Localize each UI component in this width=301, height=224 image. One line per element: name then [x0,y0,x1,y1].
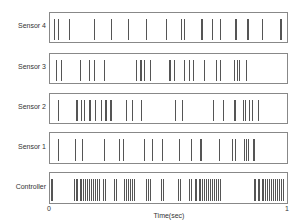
spike [245,100,246,121]
spike [106,100,107,121]
spike [248,19,249,40]
spike [281,179,282,201]
spike [144,60,145,81]
spike [52,179,53,201]
spike [150,60,151,81]
spike [81,100,82,121]
spike [85,179,86,201]
x-tick-1: 1 [285,205,289,212]
spike [181,19,182,40]
spike [234,60,235,81]
spike [273,179,274,201]
spike [184,60,185,81]
spike [265,179,266,201]
spike [235,100,236,121]
spike [213,100,214,121]
spike [184,19,185,40]
spike [77,179,78,201]
panel-sensor-2 [49,93,288,124]
spike [277,179,278,201]
spike [148,179,149,201]
spike [89,179,90,201]
spike [150,179,151,201]
spike [124,179,125,201]
spike [128,179,129,201]
spike [216,179,217,201]
spike [263,179,264,201]
spike [94,19,95,40]
spike [271,179,272,201]
spike [94,60,95,81]
spike [77,100,78,121]
spike [246,60,247,81]
spike [202,179,203,201]
spike [74,179,75,201]
spike [69,19,70,40]
spike [220,60,221,81]
spike [246,139,247,161]
spike [216,60,217,81]
spike [248,139,249,161]
spike [206,179,207,201]
spike [56,60,57,81]
spike [97,179,98,201]
spike [210,179,211,201]
spike [239,60,240,81]
spike [255,179,256,201]
spike [220,179,221,201]
spike [208,179,209,201]
spike [220,19,221,40]
spike [180,179,181,201]
row-label-sensor-3: Sensor 3 [0,63,46,70]
spike [170,60,171,81]
spike [134,179,135,201]
spike [81,179,82,201]
spike [128,19,129,40]
spike [267,179,268,201]
spike [283,179,284,201]
spike [193,60,194,81]
spike [174,60,175,81]
spike [144,139,145,161]
spike [54,19,55,40]
spike [281,19,282,40]
spike [235,139,236,161]
spike [236,19,237,40]
spike [254,139,255,161]
panel-sensor-4 [49,12,288,43]
spike [196,179,197,201]
spike [89,60,90,81]
spike [114,179,115,201]
spike [93,179,94,201]
spike [166,19,167,40]
spike [141,100,142,121]
spike [105,179,106,201]
spike [191,179,192,201]
spike [130,179,131,201]
spike [83,179,84,201]
spike [182,100,183,121]
spike [103,179,104,201]
spike [146,179,147,201]
spike [132,100,133,121]
spike [84,100,85,121]
spike [95,179,96,201]
spike [189,179,190,201]
spike [101,100,102,121]
spike [136,60,137,81]
spike [214,179,215,201]
spike [218,179,219,201]
spike [111,100,112,121]
spike [258,100,259,121]
spike [87,179,88,201]
spike [179,139,180,161]
x-tick-0: 0 [47,205,51,212]
spike [90,100,91,121]
spike [232,139,233,161]
spike [61,60,62,81]
spike [262,19,263,40]
spike [202,19,203,40]
spike [80,60,81,81]
spike [95,100,96,121]
panel-sensor-1 [49,132,288,164]
